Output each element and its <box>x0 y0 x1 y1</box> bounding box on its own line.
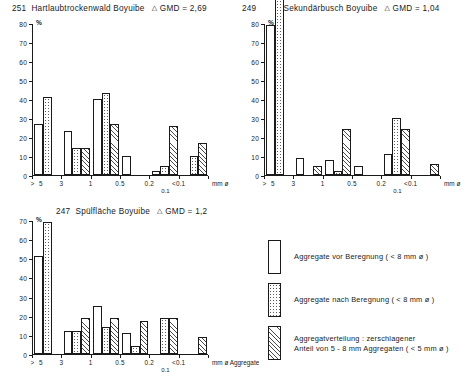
bar <box>43 222 52 354</box>
x-tick <box>120 355 121 358</box>
panel-title-text: Spülfläche Boyuibe <box>75 207 150 216</box>
bar <box>110 318 119 354</box>
legend-item-0: Aggregate vor Beregnung ( < 8 mm ø ) <box>268 240 428 274</box>
bar <box>392 118 401 175</box>
x-tick <box>293 176 294 179</box>
y-tick-label: 20 <box>251 135 259 142</box>
y-tick-label: 70 <box>19 40 27 47</box>
bar <box>140 321 149 354</box>
bar <box>296 158 305 175</box>
panel-title-249: 249Sekundärbusch Boyuibe△ GMD = 1,04 <box>242 4 440 13</box>
y-tick-label: 80 <box>251 21 259 28</box>
y-tick <box>261 43 264 44</box>
bar <box>102 327 111 354</box>
delta-icon: △ <box>384 4 390 11</box>
gmd-value: 2,69 <box>190 4 207 13</box>
y-tick-label: 10 <box>251 154 259 161</box>
x-tick <box>32 176 33 179</box>
bar <box>354 166 363 176</box>
y-tick <box>29 119 32 120</box>
bar <box>72 331 81 354</box>
x-tick-label: 0.2 <box>145 359 154 366</box>
y-tick-label: 30 <box>19 116 27 123</box>
chart-panel-249: 249Sekundärbusch Boyuibe△ GMD = 1,04 010… <box>238 4 462 200</box>
bar <box>93 99 102 175</box>
x-tick <box>179 355 180 358</box>
bar <box>190 156 199 175</box>
y-tick <box>29 24 32 25</box>
x-tick-label: 1 <box>89 180 93 187</box>
legend-label-2b: Anteil von 5 - 8 mm Aggregaten ( < 5 mm … <box>294 344 449 354</box>
y-tick <box>29 43 32 44</box>
y-tick-label: 20 <box>19 135 27 142</box>
y-tick-label: 10 <box>19 332 27 339</box>
x-tick <box>149 176 150 179</box>
y-tick <box>29 81 32 82</box>
x-tick-label: 0.5 <box>115 180 124 187</box>
panel-title-247: 247Spülfläche Boyuibe△ GMD = 1,2 <box>56 207 207 216</box>
bar <box>198 143 207 175</box>
delta-icon: △ <box>152 4 158 11</box>
bar <box>275 0 284 175</box>
legend: Aggregate vor Beregnung ( < 8 mm ø ) Agg… <box>268 240 458 360</box>
legend-label-2a: Aggregatverteilung : zerschlagener <box>294 334 449 344</box>
bar <box>313 166 322 176</box>
bar <box>325 160 334 175</box>
x-tick-label: 3 <box>291 180 295 187</box>
y-tick <box>261 157 264 158</box>
gmd-value: 1,04 <box>423 4 440 13</box>
y-tick-label: 40 <box>251 97 259 104</box>
x-tick-label: 1 <box>89 359 93 366</box>
y-tick <box>261 81 264 82</box>
y-tick-label: 50 <box>19 256 27 263</box>
bar <box>34 256 43 354</box>
y-tick-label: 0 <box>255 173 259 180</box>
x-sub-tick-label: 0.1 <box>393 188 401 194</box>
panel-title-text: Hartlaubtrockenwald Boyuibe <box>31 4 144 13</box>
bar <box>34 124 43 175</box>
x-tick <box>149 355 150 358</box>
bar <box>430 164 439 175</box>
legend-label-0: Aggregate vor Beregnung ( < 8 mm ø ) <box>294 252 428 262</box>
bar <box>81 318 90 354</box>
bar <box>160 318 169 354</box>
bar <box>72 148 81 175</box>
x-tick-label: 0.5 <box>347 180 356 187</box>
x-tick-label: 1 <box>321 180 325 187</box>
bar <box>102 93 111 175</box>
x-tick-label: 5 <box>39 180 43 187</box>
y-tick <box>29 157 32 158</box>
x-axis-unit: mm ø <box>444 180 460 187</box>
x-tick-label: 5 <box>271 180 275 187</box>
x-tick <box>61 355 62 358</box>
bar <box>122 156 131 175</box>
x-tick-label: 0.2 <box>145 180 154 187</box>
panel-title-text: Sekundärbusch Boyuibe <box>283 4 377 13</box>
y-tick-label: 30 <box>19 294 27 301</box>
bar <box>334 171 343 175</box>
plot-area-251: 01020304050607080%>5310.50.2<0.1mm ø0.1 <box>32 24 208 176</box>
x-tick-label: <0.1 <box>404 180 417 187</box>
panel-id: 251 <box>12 4 26 13</box>
gmd-label: GMD = <box>393 4 420 13</box>
y-tick <box>29 336 32 337</box>
bar <box>401 129 410 175</box>
bar <box>43 97 52 175</box>
y-tick <box>29 278 32 279</box>
x-tick <box>323 176 324 179</box>
y-tick-label: 0 <box>23 352 27 359</box>
y-tick <box>261 119 264 120</box>
bar <box>152 171 161 175</box>
bar <box>266 25 275 175</box>
x-tick-label: > <box>31 180 35 187</box>
x-sub-tick-label: 0.1 <box>161 367 169 373</box>
bar <box>384 154 393 175</box>
x-tick <box>61 176 62 179</box>
plot-area-247: 010203040506070%>5310.50.2<0.1mm ø Aggre… <box>32 221 208 355</box>
bar <box>64 131 73 175</box>
chart-panel-247: 247Spülfläche Boyuibe△ GMD = 1,2 0102030… <box>6 207 246 379</box>
legend-swatch-plain <box>268 240 281 274</box>
x-tick <box>264 176 265 179</box>
legend-swatch-hatched <box>268 326 281 360</box>
bar-group-container <box>33 24 208 175</box>
